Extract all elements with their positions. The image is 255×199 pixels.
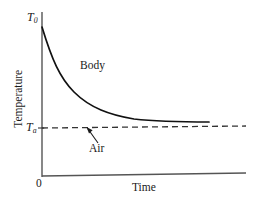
ta-subscript: a bbox=[33, 126, 37, 135]
t0-symbol: T bbox=[27, 10, 34, 24]
y-axis-title: Temperature bbox=[13, 59, 25, 139]
body-curve-label: Body bbox=[80, 60, 105, 72]
air-annotation-arrow bbox=[87, 127, 99, 143]
origin-tick-label: 0 bbox=[36, 178, 42, 190]
body-cooling-curve bbox=[42, 27, 209, 122]
x-axis-title: Time bbox=[132, 182, 156, 194]
air-dashed-line bbox=[42, 126, 246, 128]
cooling-curve-figure: T0 Ta Body Air 0 Time Temperature bbox=[0, 0, 255, 199]
t0-subscript: 0 bbox=[34, 16, 38, 25]
ta-symbol: T bbox=[26, 120, 33, 134]
y-axis-initial-temperature-label: T0 bbox=[27, 11, 38, 25]
y-axis-ambient-temperature-label: Ta bbox=[26, 121, 37, 135]
plot-canvas bbox=[0, 0, 255, 199]
x-axis bbox=[42, 173, 246, 176]
air-line-label: Air bbox=[89, 143, 104, 155]
